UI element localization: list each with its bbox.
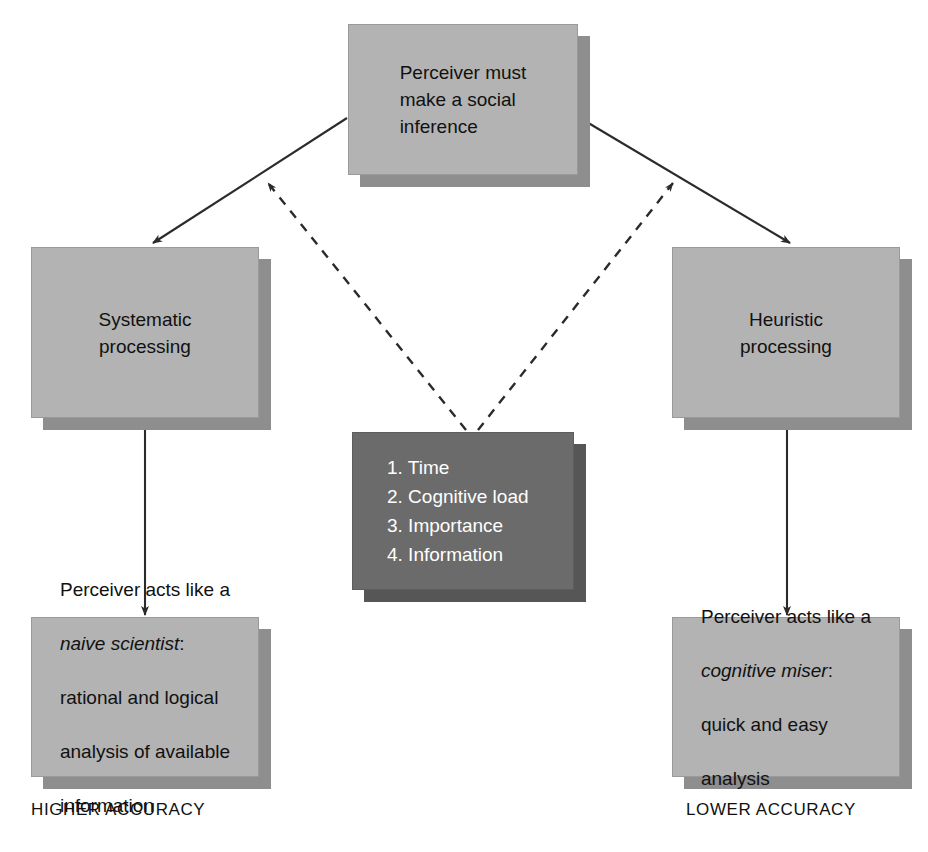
node-label-systematic-processing: Systematic processing (89, 306, 202, 360)
outcome-line-4: analysis of available (60, 738, 230, 765)
node-heuristic-processing: Heuristic processing (672, 247, 900, 418)
outcome-term-italic: cognitive miser (701, 660, 828, 681)
diagram-canvas: Perceiver must make a social inference S… (0, 0, 928, 852)
factor-item: 4. Information (387, 540, 529, 569)
box-face: Perceiver acts like a cognitive miser: q… (672, 617, 900, 777)
box-face: Heuristic processing (672, 247, 900, 418)
outcome-line-2: cognitive miser: (701, 657, 871, 684)
node-label-heuristic-processing: Heuristic processing (730, 306, 842, 360)
node-moderating-factors: 1. Time 2. Cognitive load 3. Importance … (352, 432, 574, 590)
box-face: Perceiver must make a social inference (348, 24, 578, 175)
outcome-line-1: Perceiver acts like a (60, 576, 230, 603)
edge-top-to-systematic (153, 118, 347, 243)
node-perceiver-must-make-social-inference: Perceiver must make a social inference (348, 24, 578, 175)
box-face: Perceiver acts like a naive scientist: r… (31, 617, 259, 777)
outcome-term-suffix: : (828, 660, 833, 681)
factor-item: 3. Importance (387, 511, 529, 540)
node-systematic-processing: Systematic processing (31, 247, 259, 418)
edge-factors-to-left-path (268, 183, 466, 430)
outcome-term-suffix: : (179, 633, 184, 654)
caption-lower-accuracy: LOWER ACCURACY (686, 800, 856, 820)
caption-higher-accuracy: HIGHER ACCURACY (31, 800, 205, 820)
edge-top-to-heuristic (580, 118, 790, 243)
box-face: Systematic processing (31, 247, 259, 418)
node-label-cognitive-miser: Perceiver acts like a cognitive miser: q… (691, 576, 881, 819)
node-naive-scientist-outcome: Perceiver acts like a naive scientist: r… (31, 617, 259, 777)
box-face: 1. Time 2. Cognitive load 3. Importance … (352, 432, 574, 590)
outcome-line-2: naive scientist: (60, 630, 230, 657)
outcome-term-italic: naive scientist (60, 633, 179, 654)
node-cognitive-miser-outcome: Perceiver acts like a cognitive miser: q… (672, 617, 900, 777)
outcome-line-4: analysis (701, 765, 871, 792)
factor-item: 2. Cognitive load (387, 482, 529, 511)
outcome-line-3: quick and easy (701, 711, 871, 738)
outcome-line-3: rational and logical (60, 684, 230, 711)
outcome-line-1: Perceiver acts like a (701, 603, 871, 630)
factor-item: 1. Time (387, 453, 529, 482)
node-label-top: Perceiver must make a social inference (390, 59, 537, 140)
edge-factors-to-right-path (478, 183, 673, 430)
moderating-factors-list: 1. Time 2. Cognitive load 3. Importance … (353, 453, 529, 569)
